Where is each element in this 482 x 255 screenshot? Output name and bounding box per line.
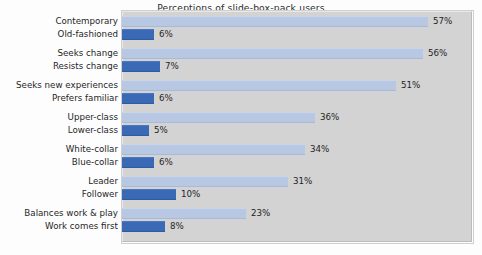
bar-value-label: 6% [159,92,173,105]
bar-row: Leader31% [0,175,482,188]
bar-category-label: Blue-collar [0,156,118,169]
bar [122,189,176,200]
bar-category-label: Seeks change [0,47,118,60]
bar-row: Lower-class5% [0,124,482,137]
bar-category-label: Old-fashioned [0,28,118,41]
bar-row: Work comes first8% [0,220,482,233]
bar-row: Blue-collar6% [0,156,482,169]
bar-row: Seeks change56% [0,47,482,60]
bar [122,157,154,168]
bar-category-label: Prefers familiar [0,92,118,105]
bar [122,221,165,232]
bar-category-label: Seeks new experiences [0,79,118,92]
bar-category-label: Upper-class [0,111,118,124]
bar [122,29,154,40]
bar-row: Follower10% [0,188,482,201]
chart-container: Perceptions of slide-box-pack users Cont… [0,0,482,255]
bar-value-label: 6% [159,28,173,41]
bar-value-label: 36% [320,111,339,124]
bar [122,93,154,104]
bar-value-label: 51% [401,79,420,92]
bar-value-label: 5% [154,124,168,137]
bar [122,176,288,187]
bar [122,208,246,219]
bar-category-label: Balances work & play [0,207,118,220]
bar-category-label: Resists change [0,60,118,73]
bar-row: Resists change7% [0,60,482,73]
bar [122,48,423,59]
bar-value-label: 7% [165,60,179,73]
bar-value-label: 23% [251,207,270,220]
bar-row: White-collar34% [0,143,482,156]
bar-category-label: Work comes first [0,220,118,233]
bar [122,112,315,123]
bar-row: Seeks new experiences51% [0,79,482,92]
bar-category-label: White-collar [0,143,118,156]
bar-value-label: 6% [159,156,173,169]
bar-row: Balances work & play23% [0,207,482,220]
bar-row: Contemporary57% [0,15,482,28]
bar [122,125,149,136]
bar-value-label: 10% [181,188,200,201]
bar-row: Old-fashioned6% [0,28,482,41]
bar-category-label: Contemporary [0,15,118,28]
bar-value-label: 57% [433,15,452,28]
bar-value-label: 8% [170,220,184,233]
bar-value-label: 56% [428,47,447,60]
bar [122,16,428,27]
bar-category-label: Follower [0,188,118,201]
bar-value-label: 34% [310,143,329,156]
bar-row: Upper-class36% [0,111,482,124]
bar [122,144,305,155]
bar-value-label: 31% [293,175,312,188]
bar-category-label: Leader [0,175,118,188]
bar-row: Prefers familiar6% [0,92,482,105]
bar [122,80,396,91]
bar-category-label: Lower-class [0,124,118,137]
bar [122,61,160,72]
